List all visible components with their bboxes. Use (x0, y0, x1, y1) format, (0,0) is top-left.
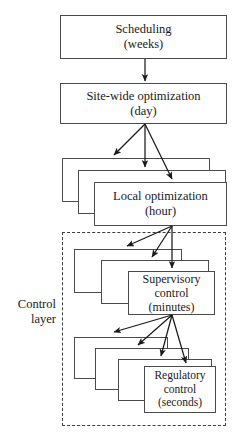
arrow-supervisory-to-regulatory-mid2 (161, 315, 172, 356)
arrow-sitewide-to-local-back (114, 124, 145, 155)
diagram-canvas: Control layer Scheduling (weeks) Site-wi… (0, 0, 247, 440)
arrow-supervisory-to-regulatory-front (172, 315, 186, 363)
arrow-sitewide-to-local-front (145, 124, 172, 179)
arrow-layer (0, 0, 247, 440)
